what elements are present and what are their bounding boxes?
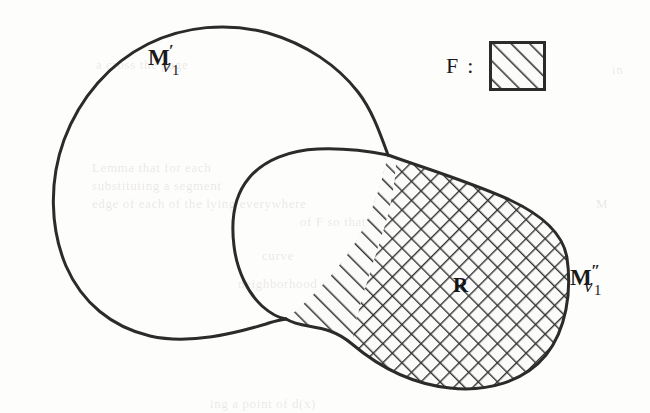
legend: F : — [446, 40, 546, 92]
set-diagram-svg — [0, 0, 650, 413]
label-m-prime-v1: M′ v1 — [148, 46, 174, 69]
label-m-double-prime-v1: M″ v1 — [570, 266, 601, 289]
hatched-region-group — [270, 140, 590, 410]
cross-hatch-fill — [270, 140, 590, 410]
legend-swatch-hatched-square — [489, 41, 546, 91]
label-m-dprime-sub-var: v — [584, 276, 592, 296]
figure-canvas: a cross the pageinLemma that for eachsub… — [0, 0, 650, 413]
label-m-prime-sub-num: 1 — [172, 62, 179, 78]
legend-hatch-icon — [492, 44, 543, 88]
legend-label: F : — [446, 53, 475, 79]
label-m-dprime-sub-num: 1 — [594, 282, 601, 298]
label-region-r: R — [453, 275, 468, 296]
label-m-prime-sub-var: v — [162, 56, 170, 76]
